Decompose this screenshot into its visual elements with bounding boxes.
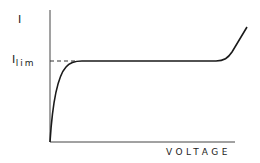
- ilim-label: Ilim: [12, 53, 36, 66]
- ilim-label-sub: lim: [16, 58, 36, 68]
- iv-chart: [0, 0, 260, 163]
- iv-curve: [50, 27, 247, 142]
- y-axis-label: I: [18, 13, 21, 26]
- x-axis-label: VOLTAGE: [166, 147, 231, 157]
